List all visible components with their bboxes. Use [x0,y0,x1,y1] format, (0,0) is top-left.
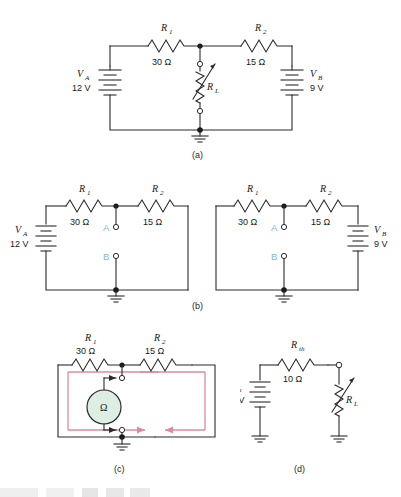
arrow-rl-a-head [210,64,215,69]
label-va-bl: V [15,224,23,235]
label-rl-d: R [345,394,352,405]
caption-b: (b) [192,301,203,311]
label-vb-sub-br: B [382,230,387,238]
circuit-a: R 1 30 Ω R 2 15 Ω V A 12 V V B 9 V R L (… [0,0,401,168]
wire-a-bottom-right [200,95,292,130]
ground-symbol-d-left [252,436,268,442]
label-r1-br: R [246,183,253,194]
battery-va-bl [36,226,56,251]
battery-vb-br [348,226,368,251]
resistor-r2-bl [138,200,188,212]
caption-a: (a) [192,150,203,160]
wire-a-bottom-left [110,95,200,130]
label-rl-sub-a: L [214,87,219,95]
value-vb-a: 9 V [310,83,324,93]
terminal-a-bl [113,224,118,229]
terminal-d-top [336,362,342,368]
terminal-a-lower [197,108,202,113]
label-r1-sub-bl: 1 [87,189,91,197]
label-r1-bl: R [78,183,85,194]
label-r2-a: R [254,22,261,33]
circuit-figure: R 1 30 Ω R 2 15 Ω V A 12 V V B 9 V R L (… [0,0,401,497]
value-r2-c: 15 Ω [145,346,165,356]
label-vb-sub-a: B [318,74,323,82]
circuit-c: Ω R 1 30 Ω R 2 15 Ω (c) [40,332,260,492]
label-rth-sub-d: th [299,345,305,353]
probe-arrow-lower [109,427,116,433]
label-r2-sub-a: 2 [263,28,267,36]
label-r1-c: R [84,332,91,343]
terminal-label-b-bl: B [103,251,109,262]
value-r1-a: 30 Ω [152,57,172,67]
value-r2-a: 15 Ω [246,57,266,67]
label-va-sub-bl: A [22,230,28,238]
resistor-r2-c [140,359,192,371]
label-va-sub-a: A [84,74,90,82]
resistor-r2-br [306,200,358,212]
terminal-label-a-bl: A [103,222,110,233]
terminal-label-a-br: A [271,222,278,233]
terminal-b-bl [113,253,118,258]
arrow-rl-d-head [349,378,354,383]
label-r1-sub-c: 1 [93,338,97,346]
circuit-d: R th 10 Ω V th 10 V R L (d) [240,332,400,492]
value-r2-bl: 15 Ω [143,217,163,227]
label-r2-c: R [153,332,160,343]
current-arrow-right [165,427,173,434]
label-rl-a: R [206,81,213,92]
battery-va-a [99,70,121,95]
ground-symbol-c [114,437,130,450]
label-vth-sub-d: th [240,386,242,394]
resistor-rth-d [278,359,328,371]
resistor-r1-br [234,200,284,212]
terminal-c-lower [119,427,124,432]
value-vb-br: 9 V [374,239,388,249]
terminal-b-br [281,253,286,258]
label-r1-sub-a: 1 [169,28,173,36]
caption-b-wrap: (b) [0,296,401,316]
wire-c-right-outer [155,365,215,437]
resistor-r2-a [241,40,292,52]
ground-symbol-a [192,130,208,142]
label-r2-br: R [319,183,326,194]
label-vb-a: V [310,68,318,79]
label-r2-sub-c: 2 [162,338,166,346]
value-r2-br: 15 Ω [311,217,331,227]
label-rl-sub-d: L [353,400,358,408]
ground-symbol-d-right [331,436,347,442]
value-va-a: 12 V [72,83,91,93]
resistor-r1-a [148,40,200,52]
value-r1-br: 30 Ω [238,217,258,227]
resistor-r1-c [72,359,122,371]
current-loop-right [140,372,205,430]
label-r1-a: R [160,22,167,33]
current-arrow-left [137,427,145,434]
ohm-symbol: Ω [100,402,107,413]
page-edge-artifact [0,488,150,497]
caption-d: (d) [294,464,305,474]
caption-c: (c) [114,464,125,474]
terminal-c-upper [119,375,124,380]
terminal-a-upper [197,61,202,66]
battery-vb-a [281,70,303,95]
value-r1-bl: 30 Ω [70,217,90,227]
battery-vth-d [250,382,270,407]
label-r2-sub-bl: 2 [160,189,164,197]
label-r2-sub-br: 2 [328,189,332,197]
resistor-r1-bl [66,200,116,212]
label-rth-d: R [290,339,297,350]
label-r2-bl: R [151,183,158,194]
probe-arrow-upper [109,375,116,381]
label-vb-br: V [374,224,382,235]
terminal-a-br [281,224,286,229]
label-va-a: V [77,68,85,79]
value-r1-c: 30 Ω [76,346,96,356]
value-vth-d: 10 V [240,395,245,405]
value-va-bl: 12 V [10,239,29,249]
label-r1-sub-br: 1 [255,189,259,197]
value-rth-d: 10 Ω [283,374,303,384]
terminal-label-b-br: B [271,251,277,262]
